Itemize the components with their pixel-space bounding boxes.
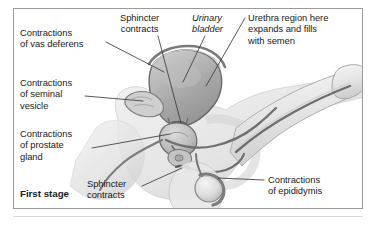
label-sphincter-top: Sphincter contracts	[120, 12, 159, 35]
label-vas-deferens: Contractions of vas deferens	[20, 27, 83, 50]
label-epididymis: Contractions of epididymis	[268, 174, 322, 197]
anatomical-figure: Contractions of vas deferens Contraction…	[0, 0, 372, 226]
label-prostate-gland: Contractions of prostate gland	[20, 128, 72, 162]
label-urinary-bladder: Urinary bladder	[192, 12, 223, 35]
label-seminal-vesicle: Contractions of seminal vesicle	[20, 77, 72, 111]
bladder-highlight	[161, 64, 201, 88]
label-urethra-region: Urethra region here expands and fills wi…	[248, 12, 328, 46]
figure-caption: First stage	[20, 188, 69, 199]
glans	[332, 65, 368, 99]
ampulla-node	[175, 155, 183, 161]
label-sphincter-bottom: Sphincter contracts	[87, 178, 126, 201]
